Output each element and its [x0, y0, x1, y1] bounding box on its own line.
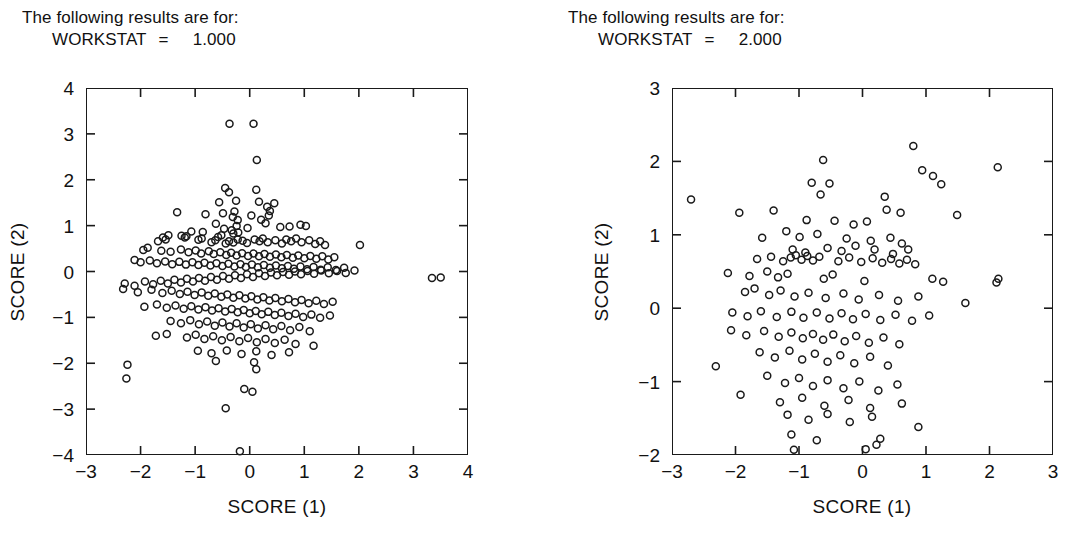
data-points-right	[672, 88, 1053, 455]
y-tick-label: −2	[34, 354, 74, 373]
scatter-point	[867, 237, 874, 244]
scatter-point	[688, 196, 695, 203]
scatter-point	[862, 311, 869, 318]
scatter-point	[306, 328, 313, 335]
scatter-point	[841, 338, 848, 345]
workstat-equals-sign: =	[705, 30, 715, 50]
scatter-point	[245, 335, 252, 342]
scatter-point	[313, 297, 320, 304]
scatter-point	[254, 325, 261, 332]
x-axis-title-right: SCORE (1)	[813, 496, 912, 518]
y-tick-label: 4	[34, 79, 74, 98]
scatter-point	[773, 314, 780, 321]
scatter-point	[317, 314, 324, 321]
scatter-point	[905, 246, 912, 253]
scatter-point	[759, 234, 766, 241]
scatter-point	[909, 317, 916, 324]
scatter-point	[783, 228, 790, 235]
scatter-point	[896, 260, 903, 267]
y-tick-label: −3	[34, 400, 74, 419]
scatter-point	[892, 311, 899, 318]
scatter-point	[884, 362, 891, 369]
scatter-point	[840, 385, 847, 392]
scatter-point	[298, 296, 305, 303]
scatter-point	[826, 180, 833, 187]
x-tick-label: −3	[75, 462, 97, 481]
scatter-point	[227, 334, 234, 341]
scatter-point	[210, 333, 217, 340]
scatter-point	[141, 278, 148, 285]
scatter-point	[157, 277, 164, 284]
scatter-point	[838, 310, 845, 317]
scatter-point	[428, 274, 435, 281]
scatter-point	[180, 305, 187, 312]
scatter-point	[218, 337, 225, 344]
scatter-point	[177, 320, 184, 327]
scatter-point	[837, 352, 844, 359]
scatter-point	[875, 387, 882, 394]
scatter-point	[855, 296, 862, 303]
scatter-point	[728, 327, 735, 334]
scatter-point	[250, 120, 257, 127]
scatter-point	[287, 327, 294, 334]
scatter-point	[849, 316, 856, 323]
scatter-point	[185, 249, 192, 256]
scatter-point	[879, 259, 886, 266]
scatter-point	[768, 253, 775, 260]
scatter-point	[784, 411, 791, 418]
scatter-point	[869, 255, 876, 262]
scatter-point	[202, 211, 209, 218]
scatter-point	[286, 223, 293, 230]
scatter-point	[219, 319, 226, 326]
scatter-point	[799, 394, 806, 401]
scatter-point	[153, 301, 160, 308]
scatter-point	[895, 297, 902, 304]
scatter-point	[754, 256, 761, 263]
scatter-point	[938, 181, 945, 188]
scatter-point	[329, 298, 336, 305]
scatter-point	[808, 179, 815, 186]
scatter-point	[253, 157, 260, 164]
scatter-point	[724, 269, 731, 276]
workstat-equals-sign: =	[159, 30, 169, 50]
scatter-point	[915, 293, 922, 300]
scatter-point	[880, 334, 887, 341]
scatter-point	[278, 240, 285, 247]
x-axis-title-left: SCORE (1)	[228, 496, 327, 518]
scatter-point	[326, 312, 333, 319]
scatter-point	[994, 164, 1001, 171]
scatter-point	[858, 258, 865, 265]
y-tick-label: −1	[620, 372, 660, 391]
scatter-point	[871, 246, 878, 253]
scatter-point	[782, 380, 789, 387]
scatter-point	[163, 330, 170, 337]
scatter-point	[216, 199, 223, 206]
scatter-point	[770, 207, 777, 214]
header-line-1: The following results are for:	[22, 8, 239, 28]
y-tick-label: 2	[620, 152, 660, 171]
scatter-point	[912, 261, 919, 268]
scatter-point	[253, 366, 260, 373]
scatter-point	[241, 385, 248, 392]
scatter-point	[268, 351, 275, 358]
scatter-point	[757, 308, 764, 315]
workstat-variable-name: WORKSTAT	[598, 30, 693, 50]
x-tick-label: 2	[984, 462, 995, 481]
scatter-point	[159, 290, 166, 297]
scatter-point	[167, 248, 174, 255]
workstat-variable-name: WORKSTAT	[52, 30, 147, 50]
y-tick-label: 1	[34, 216, 74, 235]
scatter-point	[751, 285, 758, 292]
scatter-point	[861, 278, 868, 285]
scatter-point	[796, 374, 803, 381]
header-line-2: WORKSTAT=1.000	[52, 30, 236, 50]
scatter-point	[830, 331, 837, 338]
scatter-point	[799, 335, 806, 342]
x-tick-label: 0	[244, 462, 255, 481]
scatter-point	[824, 245, 831, 252]
scatter-point	[253, 186, 260, 193]
scatter-point	[712, 363, 719, 370]
scatter-point	[840, 290, 847, 297]
scatter-point	[883, 206, 890, 213]
x-tick-label: −1	[788, 462, 810, 481]
